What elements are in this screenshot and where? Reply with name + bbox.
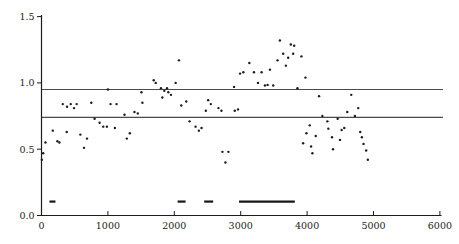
data-point xyxy=(107,88,109,90)
data-point xyxy=(359,131,361,133)
data-point xyxy=(167,91,169,93)
data-point xyxy=(73,107,75,109)
data-point xyxy=(315,135,317,137)
data-point xyxy=(58,141,60,143)
data-point xyxy=(233,86,235,88)
data-point xyxy=(287,57,289,59)
data-point xyxy=(269,68,271,70)
data-point xyxy=(310,145,312,147)
data-point xyxy=(279,39,281,41)
data-point xyxy=(93,118,95,120)
data-point xyxy=(227,151,229,153)
data-point xyxy=(188,120,190,122)
data-point xyxy=(166,87,168,89)
data-point xyxy=(276,59,278,61)
data-point xyxy=(331,136,333,138)
data-point xyxy=(102,125,104,127)
data-point xyxy=(350,94,352,96)
data-point xyxy=(217,107,219,109)
data-point xyxy=(115,103,117,105)
data-point xyxy=(302,142,304,144)
data-point xyxy=(44,141,46,143)
data-point xyxy=(129,132,131,134)
data-point xyxy=(339,139,341,141)
data-point xyxy=(178,59,180,61)
data-point xyxy=(237,108,239,110)
data-point xyxy=(52,129,54,131)
y-tick-label: 1.0 xyxy=(19,77,34,88)
data-point xyxy=(321,115,323,117)
data-point xyxy=(66,131,68,133)
data-point xyxy=(357,107,359,109)
data-point xyxy=(170,94,172,96)
data-point xyxy=(239,72,241,74)
data-point xyxy=(285,64,287,66)
data-point xyxy=(180,104,182,106)
data-point xyxy=(109,103,111,105)
data-point xyxy=(354,115,356,117)
data-point xyxy=(98,121,100,123)
x-tick-label: 2000 xyxy=(162,220,186,231)
data-point xyxy=(210,103,212,105)
data-point xyxy=(194,125,196,127)
data-point xyxy=(42,152,44,154)
data-point xyxy=(133,111,135,113)
data-point xyxy=(106,125,108,127)
data-point xyxy=(86,137,88,139)
x-tick-label: 4000 xyxy=(295,220,319,231)
data-point xyxy=(296,87,298,89)
data-point xyxy=(367,159,369,161)
data-point xyxy=(185,100,187,102)
data-point xyxy=(90,102,92,104)
data-point xyxy=(205,110,207,112)
data-point xyxy=(163,90,165,92)
x-tick-label: 0 xyxy=(38,220,44,231)
data-point xyxy=(318,95,320,97)
data-point xyxy=(304,76,306,78)
data-point xyxy=(264,84,266,86)
data-point xyxy=(260,71,262,73)
data-point xyxy=(207,99,209,101)
data-point xyxy=(343,127,345,129)
x-tick-label: 6000 xyxy=(428,220,452,231)
data-point xyxy=(140,91,142,93)
data-point xyxy=(336,118,338,120)
data-point xyxy=(66,106,68,108)
data-point xyxy=(257,82,259,84)
data-point xyxy=(292,53,294,55)
data-point xyxy=(282,53,284,55)
y-tick-label: 0.0 xyxy=(19,210,34,221)
data-point xyxy=(62,103,64,105)
data-point xyxy=(311,152,313,154)
data-point xyxy=(309,124,311,126)
data-point xyxy=(70,103,72,105)
x-tick-label: 5000 xyxy=(361,220,385,231)
data-point xyxy=(75,103,77,105)
data-point xyxy=(221,151,223,153)
data-point xyxy=(272,84,274,86)
data-point xyxy=(248,62,250,64)
data-point xyxy=(123,114,125,116)
data-point xyxy=(126,137,128,139)
data-point xyxy=(220,110,222,112)
data-point xyxy=(290,43,292,45)
x-tick-label: 3000 xyxy=(229,220,253,231)
data-point xyxy=(161,96,163,98)
y-tick-label: 1.5 xyxy=(19,11,34,22)
data-point xyxy=(327,127,329,129)
data-point xyxy=(224,161,226,163)
data-point xyxy=(266,84,268,86)
data-point xyxy=(242,71,244,73)
scatter-figure: 01000200030004000500060000.00.51.01.5 xyxy=(0,0,459,244)
data-point xyxy=(41,159,43,161)
data-point xyxy=(174,82,176,84)
data-point xyxy=(340,129,342,131)
data-point xyxy=(155,82,157,84)
data-point xyxy=(305,132,307,134)
data-point xyxy=(234,110,236,112)
data-point xyxy=(198,129,200,131)
data-point xyxy=(56,140,58,142)
data-point xyxy=(253,71,255,73)
data-point xyxy=(361,136,363,138)
data-point xyxy=(137,112,139,114)
